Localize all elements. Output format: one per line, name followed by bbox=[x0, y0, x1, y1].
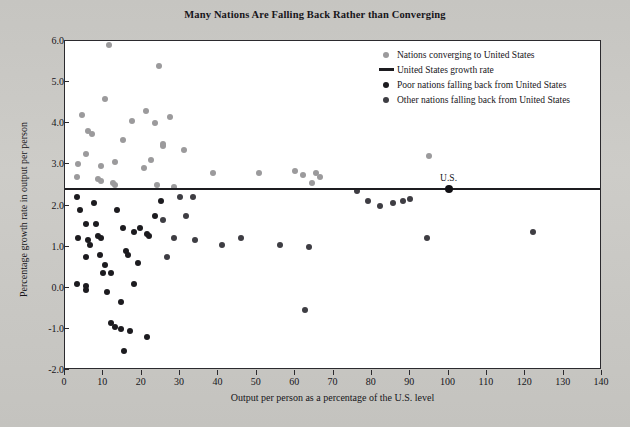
data-point bbox=[120, 225, 126, 231]
data-point bbox=[83, 151, 89, 157]
legend-item-other: Other nations falling back from United S… bbox=[375, 92, 597, 107]
x-axis-tick-label: 40 bbox=[212, 376, 222, 387]
y-axis-tick-label: -2.0 bbox=[18, 364, 64, 375]
data-point bbox=[167, 114, 173, 120]
x-axis-tick-mark bbox=[141, 370, 142, 375]
x-axis-tick-label: 60 bbox=[289, 376, 299, 387]
legend-item-converging: Nations converging to United States bbox=[375, 47, 597, 62]
x-axis-tick-label: 90 bbox=[404, 376, 414, 387]
legend-label: Nations converging to United States bbox=[397, 50, 535, 60]
data-point bbox=[83, 254, 89, 260]
x-axis-tick-mark bbox=[64, 370, 65, 375]
data-point bbox=[426, 153, 432, 159]
x-axis-tick-label: 20 bbox=[136, 376, 146, 387]
data-point bbox=[400, 198, 406, 204]
x-axis-tick-mark bbox=[179, 370, 180, 375]
data-point bbox=[137, 225, 143, 231]
y-axis-tick-mark bbox=[64, 40, 69, 41]
x-axis-tick-label: 0 bbox=[62, 376, 67, 387]
data-point bbox=[160, 217, 166, 223]
data-point bbox=[156, 63, 162, 69]
data-point bbox=[83, 287, 89, 293]
x-axis-tick-label: 110 bbox=[479, 376, 494, 387]
data-point bbox=[91, 200, 97, 206]
data-point bbox=[87, 242, 93, 248]
data-point bbox=[112, 324, 118, 330]
data-point bbox=[317, 174, 323, 180]
data-point bbox=[160, 143, 166, 149]
data-point bbox=[171, 235, 177, 241]
data-point bbox=[127, 328, 133, 334]
data-point bbox=[183, 213, 189, 219]
x-axis-tick-mark bbox=[524, 370, 525, 375]
x-axis-tick-label: 120 bbox=[517, 376, 532, 387]
data-point bbox=[120, 137, 126, 143]
x-axis-tick-mark bbox=[102, 370, 103, 375]
legend: Nations converging to United StatesUnite… bbox=[375, 47, 597, 107]
data-point bbox=[146, 233, 152, 239]
legend-marker-dot bbox=[375, 82, 397, 88]
legend-item-us_line: United States growth rate bbox=[375, 62, 597, 77]
data-point bbox=[144, 334, 150, 340]
data-point bbox=[141, 165, 147, 171]
x-axis-tick-label: 130 bbox=[555, 376, 570, 387]
data-point bbox=[177, 194, 183, 200]
data-point bbox=[121, 348, 127, 354]
x-axis-tick-mark bbox=[333, 370, 334, 375]
data-point bbox=[74, 174, 80, 180]
data-point bbox=[93, 221, 99, 227]
data-point bbox=[190, 194, 196, 200]
data-point bbox=[108, 270, 114, 276]
x-axis-tick-label: 10 bbox=[97, 376, 107, 387]
data-point bbox=[158, 198, 164, 204]
legend-marker-dot bbox=[375, 52, 397, 58]
data-point bbox=[164, 254, 170, 260]
x-axis-tick-mark bbox=[601, 370, 602, 375]
x-axis-tick-label: 30 bbox=[174, 376, 184, 387]
data-point bbox=[292, 168, 298, 174]
legend-dot-marker bbox=[383, 52, 389, 58]
data-point bbox=[89, 131, 95, 137]
legend-line-marker bbox=[379, 68, 394, 70]
data-point bbox=[79, 112, 85, 118]
data-point bbox=[104, 289, 110, 295]
data-point bbox=[98, 235, 104, 241]
data-point bbox=[152, 120, 158, 126]
data-point bbox=[118, 299, 124, 305]
data-point bbox=[148, 157, 154, 163]
data-point bbox=[131, 281, 137, 287]
x-axis-label: Output per person as a percentage of the… bbox=[64, 392, 601, 403]
data-point bbox=[114, 207, 120, 213]
us-annotation-label: U.S. bbox=[440, 173, 457, 183]
data-point bbox=[131, 229, 137, 235]
x-axis-tick-mark bbox=[294, 370, 295, 375]
x-axis-tick-label: 80 bbox=[366, 376, 376, 387]
y-axis-tick-mark bbox=[64, 81, 69, 82]
data-point bbox=[75, 161, 81, 167]
data-point bbox=[143, 108, 149, 114]
data-point bbox=[98, 163, 104, 169]
x-axis-tick-mark bbox=[371, 370, 372, 375]
data-point bbox=[102, 96, 108, 102]
data-point bbox=[152, 213, 158, 219]
data-point bbox=[365, 198, 371, 204]
data-point bbox=[118, 326, 124, 332]
y-axis-tick-mark bbox=[64, 328, 69, 329]
data-point bbox=[424, 235, 430, 241]
x-axis-tick-mark bbox=[409, 370, 410, 375]
data-point bbox=[302, 307, 308, 313]
data-point bbox=[100, 270, 106, 276]
page-title: Many Nations Are Falling Back Rather tha… bbox=[0, 9, 630, 20]
data-point bbox=[377, 203, 383, 209]
data-point bbox=[238, 235, 244, 241]
y-axis-tick-label: 6.0 bbox=[18, 35, 64, 46]
data-point bbox=[74, 281, 80, 287]
y-axis-tick-mark bbox=[64, 287, 69, 288]
data-point bbox=[390, 200, 396, 206]
y-axis-tick-mark bbox=[64, 205, 69, 206]
data-point bbox=[181, 147, 187, 153]
y-axis-tick-mark bbox=[64, 163, 69, 164]
x-axis-tick-mark bbox=[217, 370, 218, 375]
data-point bbox=[192, 237, 198, 243]
us-data-point bbox=[445, 185, 453, 193]
